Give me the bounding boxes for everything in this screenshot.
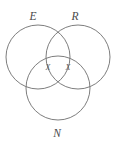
set-label-n: N [52,127,62,139]
circle-set-e [6,25,70,89]
mark-x-right: X [65,63,72,72]
venn-diagram-canvas: E R N X X [0,0,116,144]
set-label-e: E [28,10,36,22]
mark-x-left: X [45,63,52,72]
venn-diagram: E R N X X [0,0,116,144]
circle-set-r [46,25,110,89]
set-label-r: R [70,10,78,22]
circle-set-n [26,56,90,120]
